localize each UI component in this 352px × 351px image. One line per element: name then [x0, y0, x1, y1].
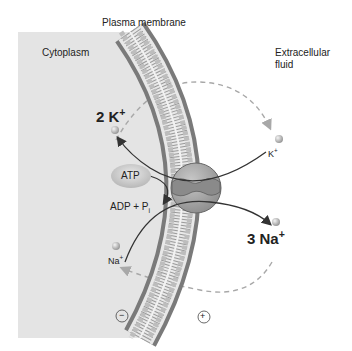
k-ion-outside [275, 135, 283, 143]
positive-charge-symbol: + [200, 311, 205, 321]
sodium-potassium-pump [171, 163, 221, 213]
na-ion-inside [112, 242, 120, 250]
k-ion-inside [111, 126, 119, 134]
na-outside-label: 3 Na+ [247, 228, 285, 247]
extracellular-label-line2: fluid [275, 59, 293, 70]
membrane-label: Plasma membrane [102, 17, 186, 28]
k-inside-label: 2 K+ [96, 106, 125, 125]
negative-charge-symbol: − [119, 310, 124, 320]
na-inside-label: Na+ [108, 254, 123, 266]
cytoplasm-label: Cytoplasm [42, 47, 89, 58]
na-ion-outside [272, 218, 280, 226]
extracellular-label-line1: Extracellular [275, 47, 330, 58]
adp-label: ADP + Pi [110, 201, 150, 214]
k-outside-label: K+ [268, 147, 278, 159]
atp-label: ATP [121, 170, 140, 181]
